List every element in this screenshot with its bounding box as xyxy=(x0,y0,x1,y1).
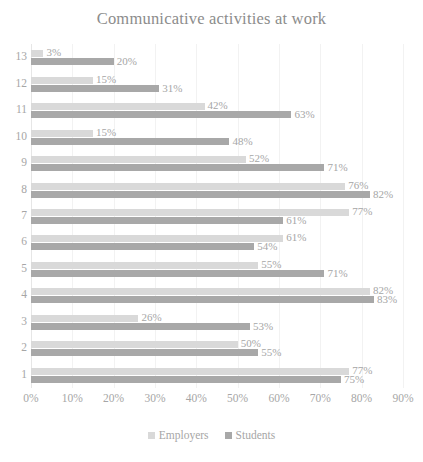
bar-value-label: 50% xyxy=(241,338,261,349)
legend-item-students[interactable]: Students xyxy=(225,430,276,442)
x-axis-tick-label: 20% xyxy=(103,392,124,404)
bar-students[interactable] xyxy=(31,270,324,277)
bar-employers[interactable] xyxy=(31,130,93,137)
y-axis-tick-label: 7 xyxy=(0,210,27,222)
bar-group: 52%71% xyxy=(31,154,403,172)
bar-group: 3%20% xyxy=(31,48,403,66)
bar-group: 77%61% xyxy=(31,207,403,225)
bar-employers[interactable] xyxy=(31,315,138,322)
y-axis: 13121110987654321 xyxy=(0,44,27,388)
bar-employers[interactable] xyxy=(31,103,205,110)
y-axis-tick-label: 12 xyxy=(0,78,27,90)
bar-students[interactable] xyxy=(31,217,283,224)
x-axis-tick-label: 30% xyxy=(144,392,165,404)
bar-value-label: 15% xyxy=(96,127,116,138)
bar-value-label: 42% xyxy=(208,100,228,111)
bar-employers[interactable] xyxy=(31,341,238,348)
bar-employers[interactable] xyxy=(31,288,370,295)
bar-group: 26%53% xyxy=(31,313,403,331)
chart-legend: EmployersStudents xyxy=(0,430,423,442)
bar-employers[interactable] xyxy=(31,156,246,163)
bar-employers[interactable] xyxy=(31,262,258,269)
bar-group: 61%54% xyxy=(31,233,403,251)
bar-value-label: 77% xyxy=(352,206,372,217)
x-axis-tick-label: 70% xyxy=(310,392,331,404)
bar-students[interactable] xyxy=(31,349,258,356)
bar-group: 50%55% xyxy=(31,339,403,357)
bar-group: 42%63% xyxy=(31,101,403,119)
y-axis-tick-label: 5 xyxy=(0,263,27,275)
bar-value-label: 15% xyxy=(96,74,116,85)
bar-value-label: 26% xyxy=(141,312,161,323)
bar-students[interactable] xyxy=(31,164,324,171)
bar-value-label: 71% xyxy=(327,268,347,279)
bar-value-label: 54% xyxy=(257,241,277,252)
y-axis-tick-label: 13 xyxy=(0,51,27,63)
bar-students[interactable] xyxy=(31,58,114,65)
bar-group: 15%31% xyxy=(31,75,403,93)
bar-employers[interactable] xyxy=(31,50,43,57)
bar-group: 55%71% xyxy=(31,260,403,278)
bar-students[interactable] xyxy=(31,323,250,330)
x-axis-tick-label: 50% xyxy=(227,392,248,404)
bar-students[interactable] xyxy=(31,111,291,118)
y-axis-tick-label: 11 xyxy=(0,104,27,116)
gridline xyxy=(403,44,404,388)
x-axis-tick-label: 90% xyxy=(392,392,413,404)
bar-value-label: 55% xyxy=(261,259,281,270)
bar-students[interactable] xyxy=(31,138,229,145)
bar-value-label: 55% xyxy=(261,347,281,358)
y-axis-tick-label: 2 xyxy=(0,342,27,354)
bar-value-label: 71% xyxy=(327,162,347,173)
y-axis-tick-label: 6 xyxy=(0,236,27,248)
legend-label: Employers xyxy=(159,430,209,442)
legend-swatch-icon xyxy=(148,432,155,439)
y-axis-tick-label: 9 xyxy=(0,157,27,169)
x-axis-tick-label: 80% xyxy=(351,392,372,404)
x-axis-tick-label: 10% xyxy=(62,392,83,404)
bar-value-label: 31% xyxy=(162,83,182,94)
bar-group: 77%75% xyxy=(31,366,403,384)
bar-value-label: 52% xyxy=(249,153,269,164)
bar-value-label: 82% xyxy=(373,189,393,200)
bar-group: 76%82% xyxy=(31,181,403,199)
chart-title: Communicative activities at work xyxy=(0,9,423,29)
bar-value-label: 61% xyxy=(286,215,306,226)
chart-container: Communicative activities at work 1312111… xyxy=(0,0,423,462)
bar-employers[interactable] xyxy=(31,183,345,190)
legend-item-employers[interactable]: Employers xyxy=(148,430,209,442)
bar-value-label: 63% xyxy=(294,109,314,120)
bar-value-label: 3% xyxy=(46,47,61,58)
bar-value-label: 61% xyxy=(286,232,306,243)
legend-label: Students xyxy=(236,430,276,442)
bar-group: 82%83% xyxy=(31,286,403,304)
bar-employers[interactable] xyxy=(31,235,283,242)
bar-value-label: 75% xyxy=(344,374,364,385)
bar-employers[interactable] xyxy=(31,77,93,84)
bar-value-label: 20% xyxy=(117,56,137,67)
legend-swatch-icon xyxy=(225,432,232,439)
y-axis-tick-label: 1 xyxy=(0,369,27,381)
bar-value-label: 83% xyxy=(377,294,397,305)
x-axis-tick-label: 60% xyxy=(268,392,289,404)
bar-value-label: 76% xyxy=(348,180,368,191)
bar-students[interactable] xyxy=(31,85,159,92)
y-axis-tick-label: 3 xyxy=(0,316,27,328)
bar-students[interactable] xyxy=(31,296,374,303)
y-axis-tick-label: 4 xyxy=(0,289,27,301)
bar-value-label: 48% xyxy=(232,136,252,147)
plot-area: 3%20%15%31%42%63%15%48%52%71%76%82%77%61… xyxy=(31,44,403,388)
x-axis-tick-label: 0% xyxy=(23,392,38,404)
bar-group: 15%48% xyxy=(31,128,403,146)
y-axis-tick-label: 8 xyxy=(0,184,27,196)
bar-employers[interactable] xyxy=(31,368,349,375)
bar-students[interactable] xyxy=(31,243,254,250)
bar-value-label: 53% xyxy=(253,321,273,332)
bar-students[interactable] xyxy=(31,191,370,198)
x-axis: 0%10%20%30%40%50%60%70%80%90% xyxy=(31,392,403,410)
x-axis-tick-label: 40% xyxy=(186,392,207,404)
bar-students[interactable] xyxy=(31,376,341,383)
y-axis-tick-label: 10 xyxy=(0,131,27,143)
